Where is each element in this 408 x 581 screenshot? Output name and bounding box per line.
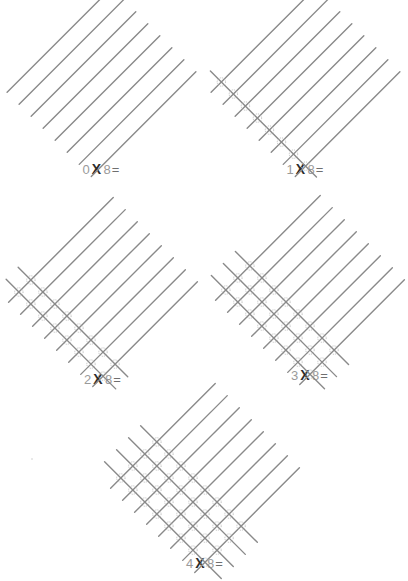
multiplier-line-4 — [141, 426, 258, 543]
multiplicand-line-5 — [57, 246, 162, 351]
multiplier-line-3 — [235, 251, 348, 364]
multiplier-line-1 — [210, 71, 316, 177]
multiplier-line-1 — [211, 276, 324, 389]
multiplicand-line-7 — [283, 60, 388, 165]
multiplicand-line-7 — [79, 60, 184, 165]
multiplicand-line-5 — [259, 36, 364, 141]
multiplier-value-1: 1 — [286, 162, 294, 177]
line-diagram-svg-3 — [215, 214, 405, 366]
multiplier-line-1 — [105, 462, 222, 579]
multiplicand-line-1 — [211, 0, 316, 92]
line-diagram-0 — [14, 8, 189, 156]
multiplicand-line-3 — [31, 12, 136, 117]
equals-sign-3: = — [320, 368, 329, 383]
line-diagram-2 — [8, 216, 198, 368]
multiplier-line-2 — [18, 267, 128, 377]
multiplicand-line-1 — [9, 198, 114, 303]
multiplicand-line-2 — [21, 210, 126, 315]
multiplicand-line-3 — [235, 12, 340, 117]
scan-speck — [31, 458, 33, 460]
multiplicand-line-2 — [19, 0, 124, 104]
equals-sign-4: = — [215, 556, 224, 571]
multiplicand-line-8 — [93, 282, 198, 387]
multiplicand-line-7 — [81, 270, 186, 375]
multiplicand-line-6 — [271, 48, 376, 153]
multiplicand-line-5 — [55, 36, 160, 141]
multiplicand-value-0: 8 — [103, 162, 111, 177]
problem-card-4: 4X8= — [105, 404, 305, 570]
problem-card-1: 1X8= — [218, 8, 393, 176]
problem-card-3: 3X8= — [215, 214, 405, 382]
equals-sign-2: = — [113, 372, 122, 387]
problem-label-2: 2X8= — [84, 372, 122, 386]
line-diagram-svg-0 — [14, 8, 189, 156]
problem-card-0: 0X8= — [14, 8, 189, 176]
multiplicand-line-4 — [43, 24, 148, 129]
multiplier-line-2 — [223, 263, 336, 376]
multiplicand-line-3 — [33, 222, 138, 327]
line-diagram-3 — [215, 214, 405, 366]
line-diagram-1 — [218, 8, 393, 156]
multiplicand-line-8 — [295, 72, 400, 177]
multiplier-value-0: 0 — [82, 162, 90, 177]
line-diagram-svg-2 — [8, 216, 198, 368]
multiplier-line-1 — [6, 279, 116, 389]
equals-sign-0: = — [112, 162, 121, 177]
multiplicand-line-1 — [7, 0, 112, 92]
multiplicand-line-4 — [45, 234, 150, 339]
problem-label-1: 1X8= — [286, 162, 324, 176]
multiplicand-line-2 — [223, 0, 328, 104]
multiplier-line-2 — [117, 450, 234, 567]
worksheet-page: 0X8= 1X8= 2X8= 3X8= 4X8= — [0, 0, 408, 581]
line-diagram-svg-1 — [218, 8, 393, 156]
equals-sign-1: = — [316, 162, 325, 177]
problem-card-2: 2X8= — [8, 216, 198, 386]
line-diagram-svg-4 — [105, 404, 305, 552]
line-diagram-4 — [105, 404, 305, 552]
multiplicand-line-6 — [67, 48, 172, 153]
problem-label-0: 0X8= — [82, 162, 120, 176]
multiplicand-line-6 — [69, 258, 174, 363]
multiplicand-line-8 — [91, 72, 196, 177]
multiplicand-line-4 — [247, 24, 352, 129]
multiplier-line-3 — [129, 438, 246, 555]
